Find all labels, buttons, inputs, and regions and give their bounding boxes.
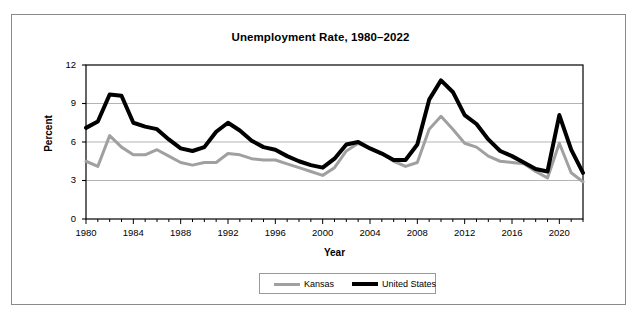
legend-label-kansas: Kansas: [304, 279, 334, 289]
x-tick-label: 1980: [64, 227, 108, 238]
x-tick-label: 1996: [253, 227, 297, 238]
y-tick-label: 0: [54, 213, 76, 224]
series-line-kansas: [86, 116, 583, 181]
data-series: [86, 80, 583, 181]
y-tick-label: 6: [54, 136, 76, 147]
x-tick-marks: [86, 219, 583, 224]
y-tick-label: 9: [54, 97, 76, 108]
legend-swatch-united-states: [352, 282, 378, 286]
legend-item-kansas: Kansas: [274, 277, 334, 291]
x-tick-label: 2000: [301, 227, 345, 238]
x-tick-label: 1988: [159, 227, 203, 238]
series-line-united-states: [86, 80, 583, 172]
chart-legend: Kansas United States: [259, 273, 436, 294]
legend-swatch-kansas: [274, 283, 300, 286]
x-tick-label: 2016: [490, 227, 534, 238]
legend-label-united-states: United States: [382, 279, 436, 289]
x-tick-label: 2004: [348, 227, 392, 238]
x-tick-label: 1992: [206, 227, 250, 238]
y-tick-label: 3: [54, 174, 76, 185]
legend-item-united-states: United States: [352, 277, 436, 291]
x-tick-label: 2020: [537, 227, 581, 238]
chart-figure: Unemployment Rate, 1980–2022 Percent 036…: [0, 0, 641, 322]
y-tick-label: 12: [54, 59, 76, 70]
x-tick-label: 2012: [443, 227, 487, 238]
x-tick-label: 1984: [111, 227, 155, 238]
x-axis-label: Year: [86, 247, 583, 258]
x-tick-label: 2008: [395, 227, 439, 238]
